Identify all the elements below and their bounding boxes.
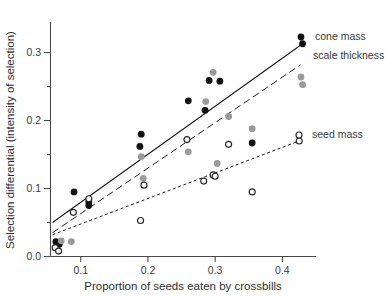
data-point bbox=[184, 137, 190, 143]
legend-marker-cone-mass bbox=[298, 34, 305, 41]
legend-marker-scale-thickness bbox=[298, 74, 305, 81]
data-point bbox=[299, 40, 306, 47]
x-tick-label: 0.3 bbox=[208, 264, 223, 276]
data-point bbox=[138, 217, 144, 223]
data-point bbox=[249, 125, 256, 132]
x-axis-ticks: 0.10.20.30.4 bbox=[73, 257, 289, 277]
data-point bbox=[185, 148, 192, 155]
data-point bbox=[216, 78, 223, 85]
data-point bbox=[68, 238, 75, 245]
series-points-cone-mass bbox=[52, 40, 305, 247]
data-point bbox=[185, 97, 192, 104]
data-point bbox=[210, 69, 217, 76]
x-tick-label: 0.2 bbox=[141, 264, 156, 276]
data-point bbox=[58, 237, 65, 244]
data-point bbox=[296, 138, 302, 144]
data-point bbox=[212, 173, 218, 179]
data-point bbox=[202, 107, 209, 114]
data-point bbox=[249, 140, 256, 147]
data-point bbox=[299, 81, 306, 88]
data-point bbox=[141, 182, 147, 188]
data-point bbox=[201, 178, 207, 184]
x-tick-label: 0.4 bbox=[275, 264, 290, 276]
data-point bbox=[71, 189, 78, 196]
data-point bbox=[226, 141, 232, 147]
data-point bbox=[206, 77, 213, 84]
x-tick-label: 0.1 bbox=[73, 264, 88, 276]
data-point bbox=[70, 209, 76, 215]
series-label-seed-mass: seed mass bbox=[312, 128, 363, 140]
axes-group bbox=[51, 22, 317, 257]
x-axis-title: Proportion of seeds eaten by crossbills bbox=[84, 280, 282, 292]
data-point bbox=[56, 248, 62, 254]
scatter-plot-figure: 0.00.10.20.3 0.10.20.30.4 cone mass scal… bbox=[0, 0, 387, 297]
series-label-cone-mass: cone mass bbox=[315, 30, 366, 42]
regression-line-seed-mass bbox=[53, 141, 300, 235]
data-point bbox=[249, 189, 255, 195]
y-tick-label: 0.3 bbox=[26, 46, 41, 58]
data-point bbox=[225, 113, 232, 120]
legend-marker-seed-mass bbox=[296, 132, 302, 138]
data-point bbox=[137, 143, 144, 150]
plot-canvas: 0.00.10.20.3 0.10.20.30.4 cone mass scal… bbox=[0, 0, 387, 297]
data-point bbox=[85, 202, 92, 209]
y-axis-title: Selection differential (intensity of sel… bbox=[4, 31, 16, 249]
data-point bbox=[138, 153, 145, 160]
data-points-group bbox=[52, 34, 306, 254]
y-axis-ticks: 0.00.10.20.3 bbox=[26, 46, 50, 262]
y-tick-label: 0.0 bbox=[26, 250, 41, 262]
y-tick-label: 0.2 bbox=[26, 114, 41, 126]
series-labels-group: cone mass scale thickness seed mass bbox=[312, 30, 384, 140]
data-point bbox=[138, 131, 145, 138]
data-point bbox=[214, 160, 221, 167]
y-tick-label: 0.1 bbox=[26, 182, 41, 194]
data-point bbox=[86, 196, 92, 202]
series-label-scale-thickness: scale thickness bbox=[313, 49, 384, 61]
data-point bbox=[140, 175, 147, 182]
data-point bbox=[202, 98, 209, 105]
